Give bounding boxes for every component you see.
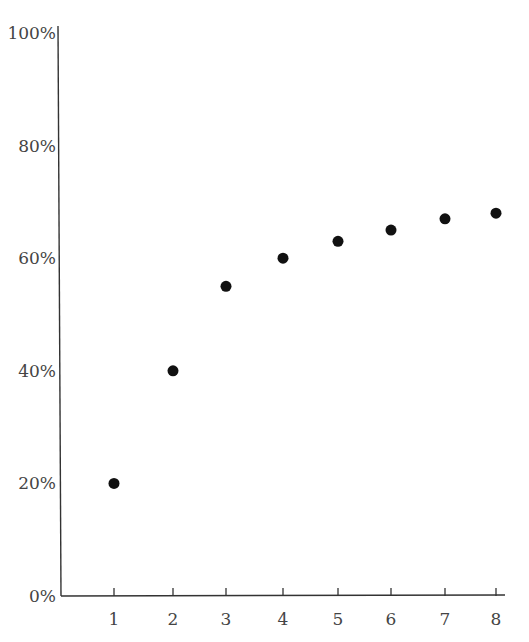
y-axis-line [58, 26, 61, 596]
y-tick-label: 60% [18, 248, 56, 268]
x-tick-label: 8 [491, 609, 502, 629]
data-point [168, 365, 179, 376]
y-tick-label: 40% [18, 361, 56, 381]
y-axis-labels: 0%20%40%60%80%100% [7, 23, 56, 606]
axes [58, 26, 505, 596]
x-tick-label: 6 [386, 609, 397, 629]
y-tick-label: 20% [18, 473, 56, 493]
y-tick-label: 80% [18, 136, 56, 156]
x-tick-label: 1 [109, 609, 120, 629]
scatter-chart: 0%20%40%60%80%100% 12345678 [0, 0, 529, 642]
data-point [221, 281, 232, 292]
data-point [109, 478, 120, 489]
data-point [333, 236, 344, 247]
x-tick-label: 3 [221, 609, 232, 629]
x-tick-label: 5 [333, 609, 344, 629]
x-axis-labels: 12345678 [109, 609, 502, 629]
data-point [386, 225, 397, 236]
y-tick-label: 100% [7, 23, 56, 43]
data-points [109, 208, 502, 489]
data-point [491, 208, 502, 219]
x-tick-label: 2 [168, 609, 179, 629]
y-tick-label: 0% [29, 586, 56, 606]
data-point [440, 213, 451, 224]
data-point [278, 253, 289, 264]
x-tick-label: 7 [440, 609, 451, 629]
x-tick-label: 4 [278, 609, 289, 629]
